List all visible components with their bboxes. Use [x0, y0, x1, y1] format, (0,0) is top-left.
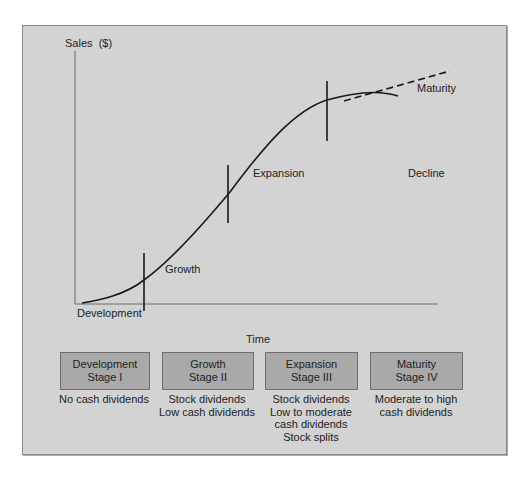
dividend-line: Low cash dividends [152, 406, 262, 419]
dividend-line: Moderate to high [365, 393, 467, 406]
stage-name: Growth [190, 358, 225, 371]
curve-label-growth: Growth [165, 263, 200, 276]
stage-box-expansion: Expansion Stage III [265, 352, 358, 390]
sales-curve [82, 93, 398, 303]
stage-name: Expansion [286, 358, 337, 371]
stage-name: Development [73, 358, 138, 371]
dividend-line: cash dividends [365, 406, 467, 419]
stage-dividends-development: No cash dividends [52, 393, 156, 406]
curve-label-decline: Decline [408, 167, 445, 180]
dividend-line: cash dividends [260, 418, 362, 431]
stage-number: Stage I [88, 371, 123, 384]
stage-box-development: Development Stage I [60, 352, 150, 390]
curve-label-maturity: Maturity [417, 82, 456, 95]
y-axis-label: Sales ($) [65, 37, 112, 50]
dividend-line: No cash dividends [52, 393, 156, 406]
curve-label-expansion: Expansion [253, 167, 304, 180]
dividend-line: Stock splits [260, 431, 362, 444]
dividend-line: Low to moderate [260, 406, 362, 419]
stage-box-growth: Growth Stage II [162, 352, 254, 390]
stage-dividends-expansion: Stock dividends Low to moderate cash div… [260, 393, 362, 443]
stage-dividends-maturity: Moderate to high cash dividends [365, 393, 467, 418]
stage-number: Stage II [189, 371, 227, 384]
stage-dividends-growth: Stock dividends Low cash dividends [152, 393, 262, 418]
stage-box-maturity: Maturity Stage IV [370, 352, 463, 390]
x-axis-label: Time [246, 333, 270, 346]
stage-name: Maturity [397, 358, 436, 371]
stage-number: Stage III [291, 371, 332, 384]
curve-label-development: Development [77, 307, 142, 320]
dividend-line: Stock dividends [152, 393, 262, 406]
dividend-line: Stock dividends [260, 393, 362, 406]
stage-number: Stage IV [395, 371, 437, 384]
